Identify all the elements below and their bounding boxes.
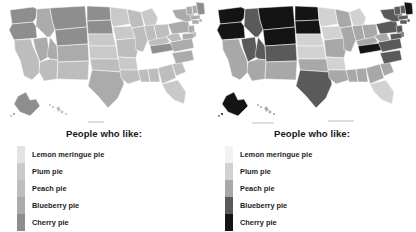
state-al — [356, 68, 368, 82]
state-mt — [258, 6, 295, 30]
state-hi-island — [52, 106, 54, 108]
legend-label-lemon-meringue-pie: Lemon meringue pie — [240, 146, 410, 163]
state-hi-island — [49, 104, 51, 106]
legend-swatch-3 — [225, 197, 233, 214]
legend-swatch-0 — [225, 146, 233, 163]
choropleth-map-low-contrast — [0, 0, 208, 126]
state-ak — [14, 92, 40, 116]
legend-label-cherry-pie: Cherry pie — [32, 214, 202, 231]
state-az — [247, 59, 266, 81]
state-ri — [407, 19, 410, 22]
state-ct — [400, 20, 407, 24]
state-ak-island — [218, 115, 220, 117]
legend-title: People who like: — [208, 128, 416, 139]
clipped-text-artifact — [208, 119, 416, 126]
us-map-svg-low — [0, 0, 208, 126]
state-ia — [321, 26, 343, 40]
legend-swatch-4 — [225, 214, 233, 231]
legend-swatch-2 — [225, 180, 233, 197]
state-wy — [55, 27, 88, 46]
state-ct — [192, 20, 199, 24]
state-hi-island — [273, 113, 275, 115]
state-mt — [50, 6, 87, 30]
legend-label-cherry-pie: Cherry pie — [240, 214, 410, 231]
legend-label-blueberry-pie: Blueberry pie — [32, 197, 202, 214]
state-hi-island — [65, 113, 67, 115]
state-nm — [265, 61, 297, 80]
legend-label-blueberry-pie: Blueberry pie — [240, 197, 410, 214]
state-or — [217, 22, 245, 40]
legend-label-plum-pie: Plum pie — [240, 163, 410, 180]
legend-swatch-3 — [17, 197, 25, 214]
state-co — [57, 44, 89, 62]
legend-color-ramp — [225, 146, 233, 231]
state-ma — [398, 15, 408, 20]
state-ar — [326, 57, 346, 70]
legend-high-contrast: People who like: Lemon meringue pie Plum… — [208, 126, 416, 232]
legend-swatch-1 — [17, 163, 25, 180]
state-az — [39, 59, 58, 81]
state-hi — [56, 106, 61, 112]
state-tx — [296, 70, 332, 108]
legend-label-peach-pie: Peach pie — [240, 180, 410, 197]
choropleth-map-high-contrast — [208, 0, 416, 126]
state-wa — [10, 7, 37, 24]
state-hi-island — [269, 111, 272, 114]
state-co — [265, 44, 297, 62]
figure-root: People who like: Lemon meringue pie Plum… — [0, 0, 416, 232]
map-panel-low-contrast: People who like: Lemon meringue pie Plum… — [0, 0, 208, 232]
state-ne — [296, 34, 324, 46]
state-or — [9, 22, 37, 40]
legend-color-ramp — [17, 146, 25, 231]
state-ne — [88, 34, 116, 46]
state-fl — [370, 80, 394, 104]
state-nd — [87, 6, 111, 21]
state-ak-island — [10, 115, 12, 117]
state-hi-island — [61, 111, 64, 114]
legend-title: People who like: — [0, 128, 208, 139]
state-ar — [118, 57, 138, 70]
state-hi-island — [260, 106, 262, 108]
legend-swatch-4 — [17, 214, 25, 231]
legend-swatch-2 — [17, 180, 25, 197]
state-tx — [88, 70, 124, 108]
state-ks — [89, 46, 118, 59]
state-nd — [295, 6, 319, 21]
state-ak — [222, 92, 248, 116]
state-ks — [297, 46, 326, 59]
state-nc — [172, 50, 194, 64]
legend-swatch-0 — [17, 146, 25, 163]
state-hi — [264, 106, 269, 112]
state-ia — [113, 26, 135, 40]
state-ak-island — [221, 113, 223, 115]
state-wy — [263, 27, 296, 46]
legend-label-peach-pie: Peach pie — [32, 180, 202, 197]
state-fl — [162, 80, 186, 104]
clipped-text-artifact — [0, 119, 208, 126]
state-ri — [199, 19, 202, 22]
us-map-svg-high — [208, 0, 416, 126]
legend-low-contrast: People who like: Lemon meringue pie Plum… — [0, 126, 208, 232]
legend-label-plum-pie: Plum pie — [32, 163, 202, 180]
state-ak-island — [13, 113, 15, 115]
legend-labels: Lemon meringue pie Plum pie Peach pie Bl… — [240, 146, 410, 231]
legend-swatch-1 — [225, 163, 233, 180]
state-sd — [295, 20, 321, 34]
state-pa — [376, 20, 399, 34]
state-nc — [380, 50, 402, 64]
state-al — [148, 68, 160, 82]
state-ma — [190, 15, 200, 20]
state-nm — [57, 61, 89, 80]
state-wa — [218, 7, 245, 24]
state-hi-island — [257, 104, 259, 106]
legend-labels: Lemon meringue pie Plum pie Peach pie Bl… — [32, 146, 202, 231]
state-pa — [168, 20, 191, 34]
legend-label-lemon-meringue-pie: Lemon meringue pie — [32, 146, 202, 163]
state-sd — [87, 20, 113, 34]
map-panel-high-contrast: People who like: Lemon meringue pie Plum… — [208, 0, 416, 232]
